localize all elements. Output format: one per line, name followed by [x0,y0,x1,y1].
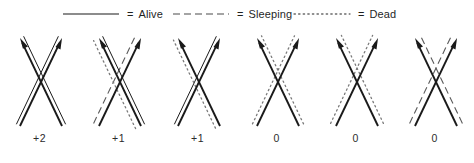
cell-score-label: 0 [237,132,316,144]
legend-label-sleeping: Sleeping [249,8,293,20]
diagram-cell-4: 0 [316,28,395,163]
arrow-shaft-up-left [259,43,299,126]
legend-item-dead: =Dead [293,4,396,24]
companion-line-dead-1 [341,35,383,123]
companion-line-sleeping-0 [94,35,136,123]
crossing-arrows-graphic [316,28,395,136]
cell-score-label: +1 [79,132,158,144]
legend-equals-sign: = [237,8,244,20]
companion-line-alive-0 [174,36,216,124]
companion-line-alive-0 [16,36,58,124]
companion-line-alive-1 [24,36,66,124]
crossing-arrows-graphic [0,28,79,136]
cell-row: +2+1+1000 [0,28,474,163]
companion-line-sleeping-1 [420,35,462,123]
legend-item-alive: =Alive [62,4,163,24]
crossing-arrows-graphic [79,28,158,136]
crossing-diagram-figure: =Alive=Sleeping=Dead +2+1+1000 [0,0,474,163]
legend-equals-sign: = [127,8,134,20]
companion-line-alive-1 [103,36,145,124]
arrow-shaft-up-right [99,43,139,126]
companion-line-dead-0 [252,36,294,124]
crossing-arrows-graphic [158,28,237,136]
diagram-cell-1: +1 [79,28,158,163]
arrow-shaft-up-left [101,43,141,126]
arrow-shaft-up-left [417,43,457,126]
diagram-cell-2: +1 [158,28,237,163]
cell-score-label: +2 [0,132,79,144]
arrow-shaft-up-right [336,43,376,126]
arrow-shaft-up-left [338,43,378,126]
cell-score-label: 0 [316,132,395,144]
legend-sample-dashed-icon [172,9,230,19]
legend-item-sleeping: =Sleeping [172,4,292,24]
companion-line-sleeping-0 [410,35,452,123]
companion-line-dead-1 [173,40,215,128]
arrow-shaft-up-right [415,43,455,126]
diagram-cell-5: 0 [395,28,474,163]
cell-score-label: 0 [395,132,474,144]
legend: =Alive=Sleeping=Dead [0,0,474,30]
arrow-shaft-up-left [180,43,220,126]
legend-label-dead: Dead [370,8,397,20]
diagram-cell-0: +2 [0,28,79,163]
companion-line-dead-2 [94,41,136,129]
legend-equals-sign: = [358,8,365,20]
arrow-shaft-up-right [257,43,297,126]
arrow-shaft-up-right [20,43,60,126]
legend-sample-dotted-icon [293,9,351,19]
legend-label-alive: Alive [139,8,163,20]
cell-score-label: +1 [158,132,237,144]
crossing-arrows-graphic [237,28,316,136]
legend-sample-solid-icon [62,9,120,19]
arrow-shaft-up-left [22,43,62,126]
diagram-cell-3: 0 [237,28,316,163]
arrowhead [178,38,186,49]
companion-line-dead-0 [331,35,373,123]
arrow-shaft-up-right [178,43,218,126]
crossing-arrows-graphic [395,28,474,136]
arrowhead [415,38,423,49]
